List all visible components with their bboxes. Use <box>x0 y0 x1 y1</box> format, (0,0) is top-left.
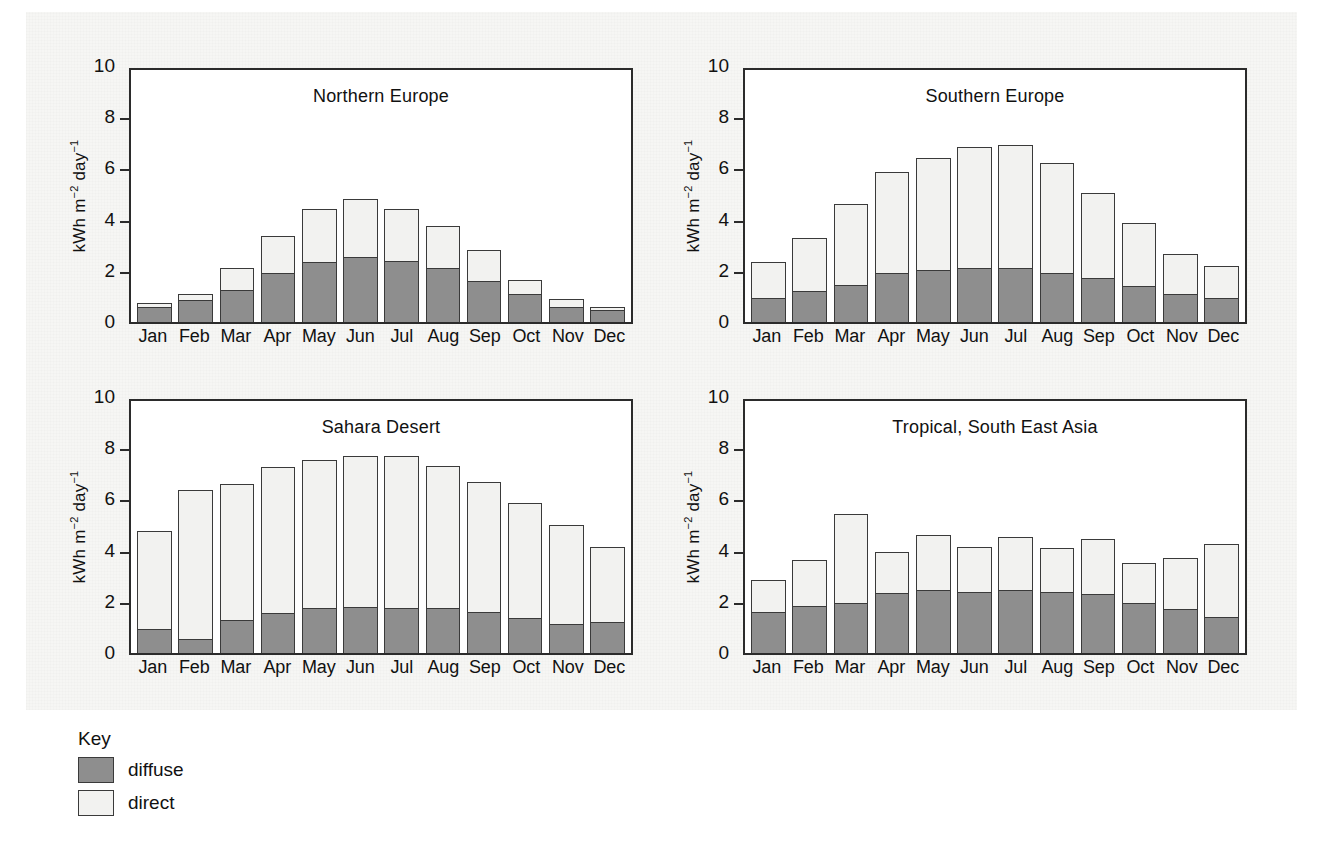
bar-segment-direct <box>1204 266 1239 298</box>
bar-segment-diffuse <box>508 294 543 322</box>
bar-segment-diffuse <box>1122 286 1157 322</box>
panel-northern-europe: kWh m−2 day−1 Northern Europe 1086420 Ja… <box>70 68 645 350</box>
stacked-bar <box>792 560 827 653</box>
legend-swatch-direct <box>78 790 114 816</box>
bar-segment-direct <box>302 460 337 608</box>
bar-slot <box>830 401 871 653</box>
panel-sahara-desert: kWh m−2 day−1 Sahara Desert 1086420 JanF… <box>70 399 645 681</box>
bar-segment-direct <box>384 456 419 608</box>
stacked-bar <box>343 456 378 653</box>
bar-segment-direct <box>426 226 461 268</box>
bar-segment-diffuse <box>220 290 255 322</box>
bar-segment-diffuse <box>549 624 584 653</box>
x-tick-label: Feb <box>788 326 830 347</box>
bar-group <box>745 401 1245 653</box>
bar-segment-diffuse <box>1040 273 1075 322</box>
x-axis-labels: JanFebMarAprMayJunJulAugSepOctNovDec <box>129 657 633 678</box>
bar-slot <box>748 70 789 322</box>
bar-segment-direct <box>549 299 584 307</box>
stacked-bar <box>1081 193 1116 322</box>
bar-slot <box>1201 70 1242 322</box>
y-tick-mark <box>120 500 129 502</box>
stacked-bar <box>384 456 419 653</box>
stacked-bar <box>1122 223 1157 322</box>
x-tick-label: Jul <box>995 326 1037 347</box>
bar-segment-diffuse <box>916 270 951 322</box>
x-tick-label: Apr <box>871 657 913 678</box>
x-tick-label: Nov <box>547 657 589 678</box>
bar-segment-direct <box>590 547 625 623</box>
bar-segment-diffuse <box>916 590 951 653</box>
bar-slot <box>954 70 995 322</box>
bar-segment-direct <box>1163 254 1198 294</box>
plot-area: Sahara Desert <box>129 399 633 655</box>
bar-segment-diffuse <box>1163 294 1198 322</box>
y-tick-label: 4 <box>718 210 729 229</box>
panel-tropical-south-east-asia: kWh m−2 day−1 Tropical, South East Asia … <box>684 399 1259 681</box>
y-tick-label: 4 <box>104 210 115 229</box>
bar-slot <box>422 70 463 322</box>
stacked-bar <box>957 547 992 653</box>
bar-segment-direct <box>834 514 869 604</box>
bar-segment-diffuse <box>957 268 992 322</box>
bar-segment-direct <box>1040 548 1075 592</box>
bar-segment-diffuse <box>343 257 378 322</box>
bar-segment-direct <box>792 560 827 606</box>
legend-title: Key <box>78 728 378 750</box>
stacked-bar <box>384 209 419 322</box>
bar-segment-direct <box>834 204 869 285</box>
stacked-bar <box>549 299 584 322</box>
y-tick-label: 0 <box>104 643 115 662</box>
bar-group <box>131 70 631 322</box>
x-tick-label: Sep <box>1078 326 1120 347</box>
stacked-bar <box>508 280 543 322</box>
x-tick-label: Jan <box>746 326 788 347</box>
x-tick-label: May <box>912 326 954 347</box>
bar-segment-diffuse <box>751 298 786 322</box>
stacked-bar <box>426 466 461 653</box>
panel-southern-europe: kWh m−2 day−1 Southern Europe 1086420 Ja… <box>684 68 1259 350</box>
bar-segment-direct <box>467 482 502 613</box>
y-tick-mark <box>734 603 743 605</box>
stacked-bar <box>998 145 1033 322</box>
bar-slot <box>954 401 995 653</box>
y-tick-mark <box>120 603 129 605</box>
x-tick-label: Jun <box>954 657 996 678</box>
bar-segment-direct <box>916 158 951 269</box>
x-tick-label: Feb <box>788 657 830 678</box>
x-tick-label: Mar <box>215 326 257 347</box>
bar-slot <box>546 401 587 653</box>
bar-segment-diffuse <box>261 273 296 322</box>
y-tick-mark <box>734 118 743 120</box>
x-tick-label: Jan <box>132 326 174 347</box>
bar-segment-diffuse <box>384 608 419 653</box>
y-tick-label: 4 <box>718 541 729 560</box>
stacked-bar <box>178 294 213 322</box>
bar-slot <box>1160 401 1201 653</box>
bar-segment-direct <box>751 262 786 298</box>
bar-segment-direct <box>998 537 1033 591</box>
x-tick-label: Mar <box>829 326 871 347</box>
bar-segment-diffuse <box>1081 278 1116 322</box>
y-tick-label: 2 <box>104 261 115 280</box>
legend-item-diffuse: diffuse <box>78 757 378 783</box>
x-tick-label: Dec <box>589 657 631 678</box>
y-tick-label: 8 <box>104 107 115 126</box>
y-tick-mark <box>734 449 743 451</box>
bar-segment-diffuse <box>1163 609 1198 653</box>
y-axis-label: kWh m−2 day−1 <box>682 68 702 324</box>
legend-label-diffuse: diffuse <box>128 759 184 781</box>
bar-slot <box>175 401 216 653</box>
x-tick-label: Jan <box>132 657 174 678</box>
bar-slot <box>134 70 175 322</box>
y-tick-mark <box>734 500 743 502</box>
bar-segment-direct <box>957 547 992 592</box>
bar-slot <box>216 401 257 653</box>
y-tick-label: 2 <box>718 261 729 280</box>
stacked-bar <box>1163 558 1198 653</box>
bar-slot <box>1119 70 1160 322</box>
stacked-bar <box>751 580 786 653</box>
x-tick-label: May <box>298 657 340 678</box>
bar-segment-diffuse <box>508 618 543 653</box>
bar-segment-diffuse <box>1081 594 1116 653</box>
